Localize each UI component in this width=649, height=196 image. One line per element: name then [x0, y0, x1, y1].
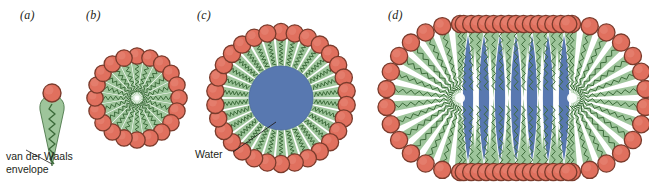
- head-group-highlight: [562, 17, 570, 25]
- head-group-highlight: [337, 71, 345, 79]
- head-group: [417, 155, 434, 172]
- head-group: [624, 131, 641, 148]
- head-group-highlight: [392, 49, 400, 57]
- head-group-highlight: [340, 98, 348, 106]
- head-group: [612, 145, 629, 162]
- head-group: [598, 155, 615, 172]
- panel-c-label: (c): [197, 8, 211, 23]
- head-group: [598, 24, 615, 41]
- head-group-highlight: [97, 67, 105, 75]
- head-group: [402, 34, 419, 51]
- head-group-highlight: [600, 157, 608, 165]
- head-group-highlight: [583, 19, 591, 27]
- head-group-highlight: [301, 31, 309, 39]
- head-group-highlight: [380, 100, 388, 108]
- head-group-highlight: [323, 135, 331, 143]
- water-core-layer: [249, 66, 313, 130]
- focal-highlight-left: [455, 93, 465, 103]
- head-group: [560, 163, 577, 180]
- panel-b-graphic: [82, 0, 192, 196]
- head-group-highlight: [404, 36, 412, 44]
- focal-highlight-right: [567, 93, 577, 103]
- panel-d: (d): [382, 0, 649, 196]
- vdw-caption-line1: van der Waals: [6, 150, 73, 163]
- head-group-highlight: [45, 86, 54, 95]
- head-group-highlight: [340, 84, 348, 92]
- panel-c-graphic: [192, 0, 370, 196]
- head-group-highlight: [404, 147, 412, 155]
- head-group: [612, 34, 629, 51]
- water-callout-label: Water: [195, 148, 223, 161]
- head-group-highlight: [331, 58, 339, 66]
- head-group-highlight: [583, 163, 591, 171]
- head-group-highlight: [337, 112, 345, 120]
- head-group: [382, 116, 399, 133]
- head-group-highlight: [626, 133, 634, 141]
- head-group: [581, 161, 598, 178]
- head-group-highlight: [331, 124, 339, 132]
- head-group: [382, 63, 399, 80]
- panel-c: (c) Water: [192, 0, 370, 196]
- head-group-highlight: [436, 163, 444, 171]
- head-group: [637, 98, 649, 115]
- head-group-highlight: [118, 52, 126, 60]
- head-layer: [87, 48, 187, 148]
- head-group: [434, 161, 451, 178]
- head-group: [391, 131, 408, 148]
- water-core-circle: [249, 66, 313, 130]
- water-lens-shape: [510, 32, 521, 164]
- head-group: [391, 47, 408, 64]
- head-group-highlight: [247, 31, 255, 39]
- head-group: [378, 80, 395, 97]
- head-group-highlight: [436, 19, 444, 27]
- head-group-highlight: [155, 58, 163, 66]
- head-group-highlight: [144, 52, 152, 60]
- vdw-caption: van der Waals envelope: [6, 150, 73, 176]
- head-group-highlight: [634, 118, 642, 126]
- figure-surfactant-aggregates: (a) van der Waals envelope (b) (c) Water…: [0, 0, 649, 196]
- head-group-highlight: [562, 165, 570, 173]
- head-group: [581, 18, 598, 35]
- head-group-highlight: [419, 157, 427, 165]
- head-group-highlight: [380, 82, 388, 90]
- head-group-highlight: [236, 38, 244, 46]
- head-group-highlight: [165, 116, 173, 124]
- panel-b: (b): [82, 0, 192, 196]
- head-group-highlight: [217, 58, 225, 66]
- head-group-highlight: [384, 118, 392, 126]
- head-group-highlight: [639, 82, 647, 90]
- head-group-highlight: [634, 65, 642, 73]
- head-group: [402, 145, 419, 162]
- panel-d-label: (d): [388, 8, 403, 23]
- head-group-highlight: [626, 49, 634, 57]
- head-group: [637, 80, 649, 97]
- head-group: [633, 63, 649, 80]
- head-group-highlight: [419, 26, 427, 34]
- head-group: [417, 24, 434, 41]
- head-group: [434, 18, 451, 35]
- head-group: [633, 116, 649, 133]
- head-group-highlight: [171, 105, 179, 113]
- head-group-highlight: [261, 27, 269, 35]
- head-group-highlight: [323, 47, 331, 55]
- head-group: [624, 47, 641, 64]
- head-group-highlight: [384, 65, 392, 73]
- head-group: [560, 15, 577, 32]
- head-group-highlight: [614, 147, 622, 155]
- head-group-highlight: [600, 26, 608, 34]
- head-group: [259, 25, 276, 42]
- head-group-highlight: [614, 36, 622, 44]
- head-group-highlight: [173, 92, 181, 100]
- head-group-highlight: [288, 27, 296, 35]
- head-group-highlight: [225, 47, 233, 55]
- panel-b-label: (b): [86, 8, 101, 23]
- head-group: [116, 50, 132, 66]
- vdw-caption-line2: envelope: [6, 163, 73, 176]
- head-group: [378, 98, 395, 115]
- head-group-highlight: [165, 67, 173, 75]
- panel-d-graphic: [382, 0, 649, 196]
- head-group-highlight: [639, 100, 647, 108]
- head-group-highlight: [171, 79, 179, 87]
- panel-a-label: (a): [20, 8, 35, 23]
- head-group-highlight: [392, 133, 400, 141]
